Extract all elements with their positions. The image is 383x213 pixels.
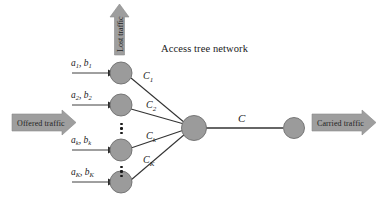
input-label-1-b-sub: 1 — [89, 62, 92, 69]
input-label-1-b: b — [84, 58, 89, 68]
input-label-2-b: b — [84, 90, 89, 100]
input-arrowheads — [108, 70, 115, 186]
edge-label-cK-sub: K — [150, 160, 155, 168]
figure-title: Access tree network — [161, 44, 248, 55]
input-label-2-a-sub: 2 — [76, 94, 79, 101]
input-label-1: a1, b1 — [71, 59, 92, 69]
edge-label-ck-sub: k — [153, 136, 156, 144]
access-node-2 — [110, 94, 132, 116]
input-label-2: a2, b2 — [71, 91, 92, 101]
access-tree-network-figure: Access tree network Offered traffic Carr… — [0, 0, 383, 213]
diagram-canvas — [0, 0, 383, 213]
edge-label-c2-base: C — [146, 99, 153, 110]
edge-label-cK: CK — [143, 155, 154, 165]
access-node-1 — [110, 62, 132, 84]
ellipsis-upper — [120, 120, 123, 134]
carried-traffic-label: Carried traffic — [317, 119, 364, 128]
access-node-k — [110, 139, 132, 161]
offered-traffic-label: Offered traffic — [17, 119, 65, 128]
input-label-k: ak, bk — [71, 136, 91, 146]
ellipsis-lower — [120, 163, 123, 177]
edge-label-c1-base: C — [143, 70, 150, 81]
input-label-2-b-sub: 2 — [89, 94, 92, 101]
lost-traffic-label: Lost traffic — [116, 16, 125, 52]
edge-c2 — [131, 109, 184, 124]
input-label-k-a-sub: k — [76, 139, 79, 146]
edge-label-c2-sub: 2 — [153, 105, 157, 113]
edge-label-ck-base: C — [146, 130, 153, 141]
tree-edges — [131, 78, 185, 180]
input-label-K: aK, bK — [71, 168, 94, 178]
edge-label-c2: C2 — [146, 100, 156, 110]
trunk-capacity-label: C — [238, 113, 245, 124]
egress-node — [284, 118, 305, 139]
input-label-1-a-sub: 1 — [76, 62, 79, 69]
edge-label-ck: Ck — [146, 131, 156, 141]
edge-ck — [131, 130, 184, 148]
input-arrows — [72, 73, 108, 182]
edge-label-c1: C1 — [143, 71, 153, 81]
edge-cK — [131, 134, 185, 180]
input-label-K-b: b — [85, 167, 90, 177]
hub-node — [182, 116, 207, 141]
input-label-k-b-sub: k — [88, 139, 91, 146]
input-label-K-b-sub: K — [90, 171, 94, 178]
input-label-K-a-sub: K — [76, 171, 80, 178]
edge-label-c1-sub: 1 — [150, 76, 154, 84]
edge-label-cK-base: C — [143, 154, 150, 165]
